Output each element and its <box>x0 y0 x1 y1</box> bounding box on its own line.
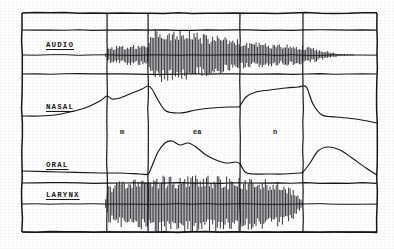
segment-label-n: n <box>273 128 277 136</box>
lane-rule-0 <box>22 30 377 31</box>
trace-oral <box>22 141 377 175</box>
trace-audio-baseline <box>22 55 377 56</box>
trace-label-larynx: LARYNX <box>46 191 80 199</box>
trace-canvas <box>0 0 394 249</box>
lane-rule-3 <box>22 232 377 233</box>
trace-larynx-baseline <box>22 204 377 205</box>
trace-label-audio: AUDIO <box>46 41 74 49</box>
speech-trace-figure: AUDIONASALORALLARYNXmean <box>0 0 394 249</box>
frame-top <box>22 13 377 14</box>
trace-label-nasal: NASAL <box>46 103 74 111</box>
trace-nasal <box>22 86 377 123</box>
segment-label-m: m <box>120 128 124 136</box>
lane-rule-1 <box>22 74 377 75</box>
frame-left <box>22 13 23 232</box>
segment-label-ea: ea <box>193 128 201 136</box>
lane-rule-2 <box>22 183 377 184</box>
trace-larynx <box>22 175 377 232</box>
trace-label-oral: ORAL <box>46 161 68 169</box>
